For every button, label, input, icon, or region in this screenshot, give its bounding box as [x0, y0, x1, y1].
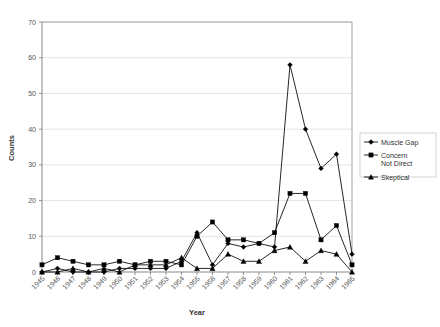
- data-point-square: [288, 191, 292, 195]
- data-point-square: [334, 223, 338, 227]
- data-point-square: [369, 153, 373, 157]
- data-point-square: [117, 259, 121, 263]
- chart-container: 010203040506070 194519461947194819491950…: [0, 0, 440, 327]
- x-axis-title: Year: [189, 308, 205, 317]
- data-point-square: [179, 263, 183, 267]
- legend-label: Concern: [381, 152, 408, 159]
- data-point-square: [226, 238, 230, 242]
- y-tick-label: 20: [28, 197, 36, 204]
- data-point-square: [350, 263, 354, 267]
- y-tick-label: 30: [28, 161, 36, 168]
- data-point-square: [241, 238, 245, 242]
- data-point-square: [272, 231, 276, 235]
- y-tick-label: 10: [28, 233, 36, 240]
- legend-label: Skeptical: [381, 174, 410, 182]
- legend-label: Muscle Gap: [381, 139, 418, 147]
- y-tick-label: 60: [28, 54, 36, 61]
- data-point-square: [319, 238, 323, 242]
- data-point-square: [195, 234, 199, 238]
- data-point-square: [210, 220, 214, 224]
- y-axis-title: Counts: [7, 135, 16, 161]
- y-tick-label: 0: [32, 269, 36, 276]
- y-tick-label: 70: [28, 19, 36, 26]
- legend-label-line2: Not Direct: [381, 160, 412, 167]
- data-point-square: [55, 256, 59, 260]
- y-tick-label: 40: [28, 126, 36, 133]
- chart-legend[interactable]: Muscle GapConcernNot DirectSkeptical: [360, 133, 436, 182]
- data-point-square: [71, 259, 75, 263]
- data-point-square: [40, 263, 44, 267]
- data-point-square: [86, 263, 90, 267]
- data-point-square: [257, 241, 261, 245]
- line-chart: 010203040506070 194519461947194819491950…: [0, 0, 440, 327]
- y-tick-label: 50: [28, 90, 36, 97]
- data-point-square: [303, 191, 307, 195]
